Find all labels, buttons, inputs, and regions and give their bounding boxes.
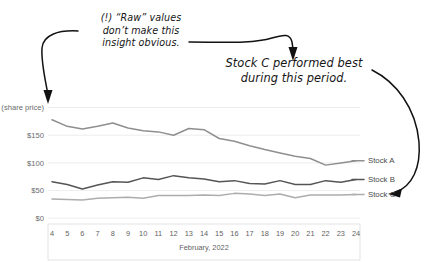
x-tick-13: 13 — [185, 229, 193, 238]
y-tick-50: $50 — [31, 186, 44, 195]
line-chart: $200 (share price) $150 $100 $50 $0 Stoc… — [0, 0, 435, 263]
x-tick-5: 5 — [65, 229, 69, 238]
x-tick-7: 7 — [96, 229, 100, 238]
x-tick-10: 10 — [139, 229, 147, 238]
x-tick-16: 16 — [230, 229, 238, 238]
legend-label-stock-b: Stock B — [368, 175, 395, 184]
x-tick-14: 14 — [200, 229, 208, 238]
x-tick-24: 24 — [352, 229, 360, 238]
x-tick-18: 18 — [261, 229, 269, 238]
x-tick-21: 21 — [306, 229, 314, 238]
x-tick-17: 17 — [245, 229, 253, 238]
x-tick-8: 8 — [111, 229, 115, 238]
series-stock-b — [52, 176, 356, 189]
x-axis-title: February, 2022 — [179, 243, 229, 252]
gridlines — [48, 108, 360, 219]
legend-label-stock-c: Stock C — [368, 190, 396, 199]
series-stock-c — [52, 193, 356, 200]
x-tick-22: 22 — [321, 229, 329, 238]
series-stock-a — [52, 120, 356, 165]
x-tick-19: 19 — [276, 229, 284, 238]
x-tick-12: 12 — [169, 229, 177, 238]
y-axis-labels: $200 (share price) $150 $100 $50 $0 — [0, 103, 44, 223]
y-tick-0: $0 — [36, 214, 44, 223]
y-tick-200: $200 (share price) — [0, 103, 44, 112]
x-tick-4: 4 — [50, 229, 54, 238]
x-tick-11: 11 — [155, 229, 163, 238]
x-tick-23: 23 — [337, 229, 345, 238]
x-tick-20: 20 — [291, 229, 299, 238]
x-axis-panel: 456789101112131415161718192021222324 Feb… — [48, 224, 360, 260]
x-tick-15: 15 — [215, 229, 223, 238]
stock-price-figure: (!) “Raw” values don’t make this insight… — [0, 0, 435, 263]
x-tick-9: 9 — [126, 229, 130, 238]
y-tick-150: $150 — [27, 131, 44, 140]
legend-label-stock-a: Stock A — [368, 156, 395, 165]
y-tick-100: $100 — [27, 159, 44, 168]
x-tick-6: 6 — [80, 229, 84, 238]
arrow-to-yaxis — [42, 31, 78, 104]
arrow-to-insight — [189, 35, 298, 61]
x-tick-labels: 456789101112131415161718192021222324 — [50, 229, 360, 238]
